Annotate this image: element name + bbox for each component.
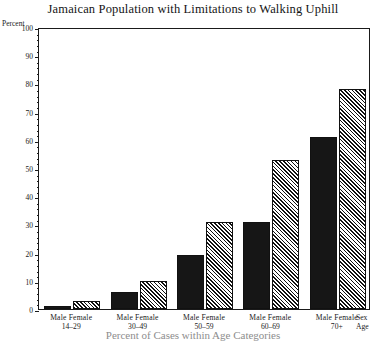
y-axis-tick-label: 20 [26,251,34,259]
y-axis-major-tick [35,283,40,284]
y-axis-tick-label: 50 [26,166,34,174]
y-axis-major-tick [35,198,40,199]
y-axis-tick-label: 70 [26,110,34,118]
y-axis-minor-tick [37,277,40,278]
y-axis-minor-tick [37,209,40,210]
y-axis-major-tick [35,170,40,171]
plot-area: 0102030405060708090100 [38,28,370,310]
y-axis-minor-tick [37,232,40,233]
bar-male-3049 [111,292,138,309]
y-axis-minor-tick [37,164,40,165]
y-axis-minor-tick [37,215,40,216]
y-axis-minor-tick [37,300,40,301]
y-axis-major-tick [35,114,40,115]
y-axis-minor-tick [37,193,40,194]
bar-male-5059 [177,255,204,309]
y-axis-minor-tick [37,294,40,295]
y-axis-minor-tick [37,52,40,53]
y-axis-tick-label: 40 [26,194,34,202]
bar-male-1429 [44,306,71,309]
y-axis-minor-tick [37,119,40,120]
x-axis-sex-pair-label: Male Female [38,313,104,322]
y-axis-minor-tick [37,204,40,205]
y-axis-tick-label: 10 [26,279,34,287]
x-axis-sex-pair-label: Male Female [171,313,237,322]
y-axis-minor-tick [37,272,40,273]
bar-male-6069 [243,222,270,309]
y-axis-minor-tick [37,221,40,222]
x-axis-sex-pair-label: Male Female [104,313,170,322]
y-axis-tick-label: 30 [26,223,34,231]
y-axis-minor-tick [37,125,40,126]
y-axis-minor-tick [37,243,40,244]
y-axis-major-tick [35,29,40,30]
y-axis-minor-tick [37,266,40,267]
y-axis-minor-tick [37,136,40,137]
y-axis-tick-label: 60 [26,138,34,146]
y-axis-minor-tick [37,176,40,177]
bar-female-6069 [272,160,299,309]
y-axis-minor-tick [37,40,40,41]
y-axis-minor-tick [37,249,40,250]
y-axis-minor-tick [37,288,40,289]
y-axis-minor-tick [37,102,40,103]
y-axis-minor-tick [37,181,40,182]
y-axis-major-tick [35,311,40,312]
y-axis-minor-tick [37,97,40,98]
y-axis-major-tick [35,226,40,227]
bar-female-1429 [73,301,100,309]
y-axis-minor-tick [37,305,40,306]
y-axis-minor-tick [37,68,40,69]
y-axis-major-tick [35,255,40,256]
y-axis-minor-tick [37,187,40,188]
y-axis-minor-tick [37,147,40,148]
x-axis-sex-pair-label: Male Female [237,313,303,322]
y-axis-major-tick [35,85,40,86]
x-axis-key-sex: Sex [356,313,386,322]
y-axis-minor-tick [37,108,40,109]
y-axis-tick-label: 90 [26,53,34,61]
y-axis-minor-tick [37,131,40,132]
y-axis-minor-tick [37,63,40,64]
y-axis-minor-tick [37,35,40,36]
y-axis-tick-label: 100 [22,25,33,33]
y-axis-minor-tick [37,46,40,47]
bar-female-3049 [140,281,167,309]
y-axis-minor-tick [37,80,40,81]
y-axis-minor-tick [37,260,40,261]
chart-title: Jamaican Population with Limitations to … [0,2,386,17]
y-axis-tick-label: 80 [26,82,34,90]
bar-male-70+ [310,137,337,309]
bar-female-5059 [206,222,233,309]
y-axis-minor-tick [37,153,40,154]
y-axis-major-tick [35,57,40,58]
y-axis-minor-tick [37,159,40,160]
y-axis-tick-label: 0 [29,307,33,315]
y-axis-minor-tick [37,238,40,239]
y-axis-minor-tick [37,91,40,92]
bar-female-70+ [339,89,366,309]
y-axis-major-tick [35,142,40,143]
y-axis-minor-tick [37,74,40,75]
chart-caption: Percent of Cases within Age Categories [0,329,386,341]
